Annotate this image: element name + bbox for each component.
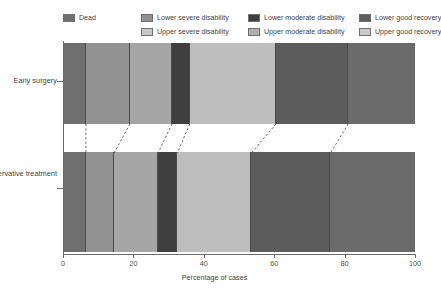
legend-item[interactable]: Lower severe disability bbox=[141, 11, 229, 24]
legend-item[interactable]: Upper severe disability bbox=[141, 25, 229, 38]
x-tick-label: 100 bbox=[409, 259, 421, 268]
bar-early-surgery bbox=[63, 43, 415, 124]
legend-swatch-icon bbox=[248, 28, 260, 36]
bar-segment bbox=[348, 43, 415, 124]
legend-item[interactable]: Dead bbox=[63, 11, 96, 24]
legend-item-label: Lower moderate disability bbox=[264, 14, 344, 22]
legend-item[interactable]: Upper moderate disability bbox=[248, 25, 344, 38]
y-tick-initial-conservative bbox=[57, 188, 63, 189]
x-tick-mark bbox=[204, 254, 205, 258]
bar-initial-conservative-treatment bbox=[63, 152, 415, 252]
legend-swatch-icon bbox=[63, 14, 75, 22]
bar-segment bbox=[86, 152, 114, 252]
legend-swatch-icon bbox=[248, 14, 260, 22]
x-axis-line bbox=[63, 254, 416, 255]
legend-item-label: Lower good recovery bbox=[375, 14, 441, 22]
bar-segment bbox=[158, 152, 177, 252]
x-tick-mark bbox=[133, 254, 134, 258]
bar-segment bbox=[190, 43, 276, 124]
legend-item[interactable]: Lower moderate disability bbox=[248, 11, 344, 24]
legend-swatch-icon bbox=[141, 14, 153, 22]
x-tick-mark bbox=[415, 254, 416, 258]
x-axis-title: Percentage of cases bbox=[0, 273, 429, 282]
x-tick-label: 20 bbox=[129, 259, 137, 268]
legend-item-label: Dead bbox=[79, 14, 96, 22]
x-tick-mark bbox=[274, 254, 275, 258]
bar-segment bbox=[276, 43, 348, 124]
legend-column: Lower moderate disabilityUpper moderate … bbox=[248, 11, 344, 39]
segment-connector-lines bbox=[63, 124, 415, 153]
connector-line bbox=[177, 124, 189, 153]
legend-column: Lower good recoveryUpper good recovery bbox=[359, 11, 441, 39]
legend-item-label: Lower severe disability bbox=[157, 14, 229, 22]
legend-item-label: Upper good recovery bbox=[375, 28, 441, 36]
connector-line bbox=[158, 124, 172, 153]
legend-item-label: Upper moderate disability bbox=[264, 28, 344, 36]
y-axis-line bbox=[63, 41, 64, 254]
connector-line bbox=[331, 124, 349, 153]
legend-item[interactable]: Upper good recovery bbox=[359, 25, 441, 38]
y-tick-early-surgery bbox=[57, 81, 63, 82]
chart-legend: DeadLower severe disabilityUpper severe … bbox=[63, 11, 415, 39]
legend-item[interactable]: Lower good recovery bbox=[359, 11, 441, 24]
bar-segment bbox=[63, 152, 86, 252]
x-tick-label: 0 bbox=[61, 259, 65, 268]
legend-swatch-icon bbox=[359, 14, 371, 22]
connector-line bbox=[114, 124, 130, 153]
x-tick-label: 60 bbox=[270, 259, 278, 268]
bar-segment bbox=[251, 152, 330, 252]
legend-column: Dead bbox=[63, 11, 96, 25]
legend-item-label: Upper severe disability bbox=[157, 28, 229, 36]
bar-segment bbox=[177, 152, 251, 252]
legend-swatch-icon bbox=[141, 28, 153, 36]
y-label-early-surgery: Early surgery bbox=[0, 76, 57, 85]
x-tick-label: 80 bbox=[341, 259, 349, 268]
bar-segment bbox=[330, 152, 414, 252]
y-label-initial-conservative: Initial conservative treatment bbox=[0, 169, 57, 178]
bar-segment bbox=[63, 43, 86, 124]
legend-column: Lower severe disabilityUpper severe disa… bbox=[141, 11, 229, 39]
bar-segment bbox=[130, 43, 172, 124]
connector-line bbox=[251, 124, 276, 153]
x-tick-label: 40 bbox=[200, 259, 208, 268]
legend-swatch-icon bbox=[359, 28, 371, 36]
x-tick-mark bbox=[63, 254, 64, 258]
x-tick-mark bbox=[345, 254, 346, 258]
bar-segment bbox=[86, 43, 130, 124]
bar-segment bbox=[114, 152, 158, 252]
bar-segment bbox=[172, 43, 190, 124]
